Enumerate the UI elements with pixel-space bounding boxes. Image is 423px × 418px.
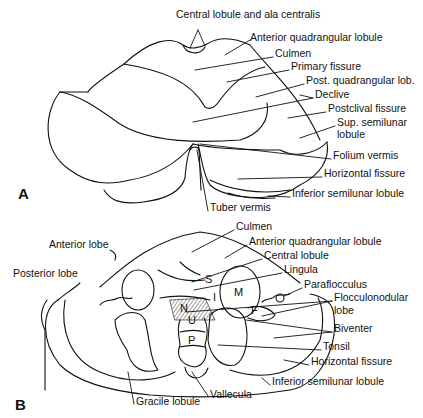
label-tonsil: Tonsil <box>323 340 350 352</box>
label-central-lobule: Central lobule <box>264 249 329 261</box>
label-gracile-lobule: Gracile lobule <box>136 395 200 407</box>
label-culmen-a: Culmen <box>275 47 311 59</box>
label-folium-vermis: Folium vermis <box>333 149 398 161</box>
label-horizontal-fissure-b: Horizontal fissure <box>311 355 392 367</box>
label-post-quadrangular-lobule: Post. quadrangular lob. <box>306 74 415 86</box>
label-tuber-vermis: Tuber vermis <box>210 201 271 213</box>
label-horizontal-fissure-a: Horizontal fissure <box>324 167 405 179</box>
label-declive: Declive <box>315 88 349 100</box>
label-primary-fissure: Primary fissure <box>291 60 361 72</box>
label-flocculonodular-lobe: lobe <box>334 304 354 316</box>
label-posterior-lobe: Posterior lobe <box>13 267 78 279</box>
label-sup-semilunar-lobule: lobule <box>337 128 365 140</box>
region-letter-u: U <box>188 314 196 326</box>
region-letter-n: N <box>180 302 188 314</box>
region-letter-i: I <box>213 291 216 303</box>
label-postclival-fissure: Postclival fissure <box>328 102 406 114</box>
label-anterior-quadrangular-lobule-b: Anterior quadrangular lobule <box>249 235 382 247</box>
label-lingula: Lingula <box>284 263 318 275</box>
panel-label-a: A <box>18 186 29 202</box>
label-sup-semilunar: Sup. semilunar <box>337 116 407 128</box>
region-letter-p: P <box>188 334 195 346</box>
label-biventer: Biventer <box>334 322 373 334</box>
region-letter-f: F <box>251 304 258 316</box>
region-letter-s: S <box>205 273 212 285</box>
label-anterior-quadrangular-lobule-a: Anterior quadrangular lobule <box>250 31 383 43</box>
label-flocculonodular: Flocculonodular <box>334 291 408 303</box>
panel-label-b: B <box>15 397 26 413</box>
label-culmen-b: Culmen <box>236 220 272 232</box>
label-inferior-semilunar-lobule-a: Inferior semilunar lobule <box>292 187 404 199</box>
label-inferior-semilunar-lobule-b: Inferior semilunar lobule <box>272 375 384 387</box>
region-letter-m: M <box>234 286 243 298</box>
label-anterior-lobe: Anterior lobe <box>49 238 109 250</box>
label-vallecula: Vallecula <box>210 388 252 400</box>
label-central-lobule-ala-centralis: Central lobule and ala centralis <box>176 8 320 20</box>
label-paraflocculus: Paraflocculus <box>304 278 367 290</box>
